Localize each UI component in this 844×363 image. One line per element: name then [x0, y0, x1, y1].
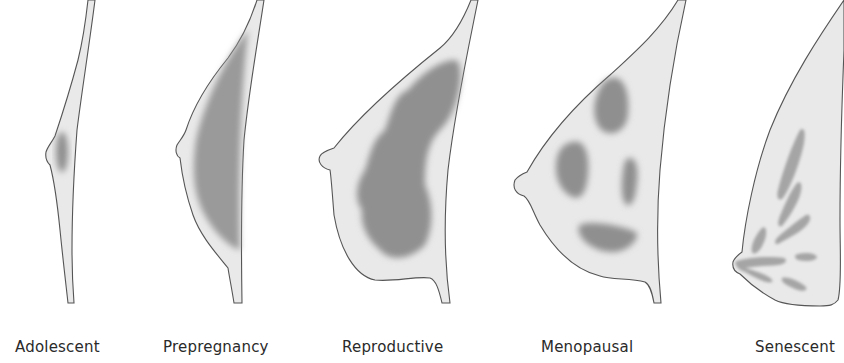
- stage-label-senescent: Senescent: [755, 338, 835, 356]
- stage-label-menopausal: Menopausal: [541, 338, 633, 356]
- reproductive-profile: [319, 0, 478, 303]
- adolescent-outline: [46, 0, 95, 303]
- stage-label-prepregnancy: Prepregnancy: [163, 338, 269, 356]
- prepregnancy-profile: [176, 0, 264, 303]
- breast-development-diagram: [0, 0, 844, 363]
- adolescent-profile: [46, 0, 95, 303]
- senescent-profile: [733, 0, 844, 306]
- stage-label-adolescent: Adolescent: [15, 338, 100, 356]
- menopausal-outline: [514, 0, 686, 303]
- stage-label-reproductive: Reproductive: [342, 338, 443, 356]
- menopausal-profile: [514, 0, 686, 303]
- adolescent-tissue: [56, 132, 68, 172]
